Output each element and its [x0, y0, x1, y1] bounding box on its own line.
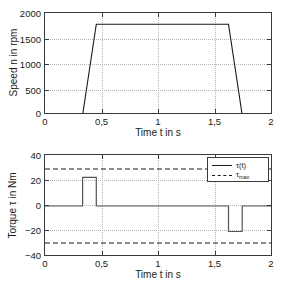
x-axis-title-torque: Time t in s	[44, 269, 272, 280]
legend-label-tau-max: τmax	[236, 170, 249, 180]
x-axis-title-speed: Time t in s	[44, 127, 272, 138]
xticklabel-torque-1.5: 1,5	[208, 258, 221, 269]
xticklabel-torque-0.5: 0,5	[95, 258, 108, 269]
yticklabel-torque-neg20: −20	[25, 225, 41, 236]
ytick-speed-1000	[45, 64, 49, 65]
xticklabel-speed-1.5: 1,5	[208, 116, 221, 127]
legend-key-solid-icon	[211, 161, 233, 169]
xtick-top-speed-1	[158, 13, 159, 17]
ytick-speed-1500	[45, 39, 49, 40]
plot-area-speed: 0 0,5 1 1,5 2 0 500 1000 1500 2000	[44, 12, 272, 114]
yticklabel-torque-neg40: −40	[25, 250, 41, 261]
yticklabel-torque-40: 40	[30, 150, 41, 161]
xticklabel-speed-0: 0	[42, 116, 47, 127]
xtick-top-torque-1	[158, 155, 159, 159]
xtick-top-speed-0.5	[102, 13, 103, 17]
legend-torque: τ(t) τmax	[207, 157, 269, 182]
xtick-torque-1	[158, 251, 159, 255]
yticklabel-speed-1500: 1500	[20, 33, 41, 44]
ytick-torque-neg20	[45, 230, 49, 231]
ytick-speed-500	[45, 90, 49, 91]
legend-entry-tau-max: τmax	[211, 170, 265, 180]
xtick-speed-1.5	[215, 109, 216, 113]
plot-area-torque: 0 0,5 1 1,5 2 −40 −20 0 20 40 τ(t)	[44, 154, 272, 256]
legend-label-tau-t: τ(t)	[236, 161, 246, 170]
ytick-right-torque-0	[267, 205, 271, 206]
xticklabel-torque-1: 1	[155, 258, 160, 269]
yticklabel-speed-2000: 2000	[20, 8, 41, 19]
legend-entry-tau-t: τ(t)	[211, 160, 265, 170]
series-speed-curve	[45, 13, 271, 113]
ytick-right-speed-1500	[267, 39, 271, 40]
ytick-torque-0	[45, 205, 49, 206]
yticklabel-speed-500: 500	[25, 84, 41, 95]
yticklabel-speed-0: 0	[36, 108, 41, 119]
plot-clip-speed	[45, 13, 271, 113]
xtick-top-torque-0.5	[102, 155, 103, 159]
yticklabel-torque-0: 0	[36, 200, 41, 211]
xtick-speed-0.5	[102, 109, 103, 113]
ytick-right-torque-neg20	[267, 230, 271, 231]
legend-key-dashed-icon	[211, 171, 233, 179]
yticklabel-torque-20: 20	[30, 175, 41, 186]
xticklabel-torque-2: 2	[268, 258, 273, 269]
yticklabel-speed-1000: 1000	[20, 59, 41, 70]
panel-speed: Speed n in rpm	[0, 0, 283, 144]
xtick-torque-1.5	[215, 251, 216, 255]
figure-speed-torque-profile: Speed n in rpm	[0, 0, 283, 288]
ytick-torque-20	[45, 180, 49, 181]
xticklabel-torque-0: 0	[42, 258, 47, 269]
y-axis-title-torque: Torque τ in Nm	[7, 151, 18, 261]
xtick-speed-1	[158, 109, 159, 113]
ytick-right-speed-1000	[267, 64, 271, 65]
y-axis-title-speed: Speed n in rpm	[8, 8, 19, 118]
xticklabel-speed-0.5: 0,5	[95, 116, 108, 127]
legend-label-tau-max-sub: max	[239, 174, 249, 180]
xticklabel-speed-2: 2	[268, 116, 273, 127]
xtick-top-speed-1.5	[215, 13, 216, 17]
xtick-torque-0.5	[102, 251, 103, 255]
xticklabel-speed-1: 1	[155, 116, 160, 127]
panel-torque: Torque τ in Nm	[0, 144, 283, 288]
ytick-right-speed-500	[267, 90, 271, 91]
